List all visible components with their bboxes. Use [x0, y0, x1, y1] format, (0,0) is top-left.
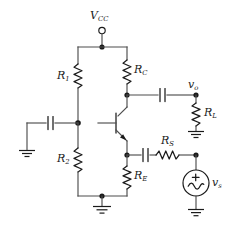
resistor-rl-body — [192, 103, 200, 126]
label-r2: R2 — [57, 153, 70, 164]
vcc-terminal-circle — [99, 27, 105, 33]
resistor-rc-body — [123, 60, 131, 84]
resistor-rs-body — [156, 151, 179, 159]
wire-collector-lead-slant — [118, 107, 127, 116]
schematic-canvas — [0, 0, 235, 241]
resistor-re-body — [123, 166, 131, 189]
resistor-r2-body — [74, 148, 82, 172]
circuit-diagram: VCC R1 RC vo RL R2 RE RS vs — [0, 0, 235, 241]
label-re: RE — [134, 170, 147, 181]
label-vs: vs — [212, 177, 222, 188]
label-vo: vo — [188, 79, 198, 90]
label-r1: R1 — [57, 70, 70, 81]
resistor-r1-body — [74, 64, 82, 88]
label-rc: RC — [134, 64, 148, 75]
label-rs: RS — [161, 135, 174, 146]
label-rl: RL — [204, 107, 217, 118]
label-vcc: VCC — [90, 10, 109, 21]
